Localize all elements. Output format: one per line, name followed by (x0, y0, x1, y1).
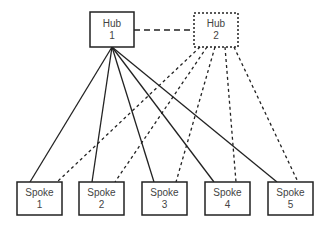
hub-1: Hub 1 (90, 12, 134, 47)
hub1-spoke3-link (112, 47, 154, 182)
spoke-3: Spoke 3 (142, 182, 187, 215)
hub-spoke-diagram: Hub 1 Hub 2 Spoke 1 Spoke 2 Spoke 3 Spok… (0, 0, 330, 227)
spoke-3-number: 3 (162, 199, 168, 210)
hub2-spoke5-link (234, 47, 298, 182)
spoke-4-label: Spoke (213, 187, 242, 198)
spoke-1-label: Spoke (25, 187, 54, 198)
spoke-2-label: Spoke (87, 187, 116, 198)
hub1-spoke5-link (112, 47, 277, 182)
spoke-5-label: Spoke (276, 187, 305, 198)
hub-1-label: Hub (103, 18, 122, 29)
spoke-2: Spoke 2 (79, 182, 124, 215)
hub-2: Hub 2 (194, 13, 238, 47)
spoke-2-number: 2 (99, 199, 105, 210)
spoke-3-label: Spoke (150, 187, 179, 198)
spoke-5-number: 5 (288, 199, 294, 210)
spoke-1: Spoke 1 (17, 182, 62, 215)
spoke-4: Spoke 4 (205, 182, 250, 215)
hub-2-label: Hub (207, 18, 226, 29)
spoke-1-number: 1 (37, 199, 43, 210)
hub1-links (30, 47, 277, 182)
hub2-links (57, 47, 298, 182)
hub1-spoke1-link (30, 47, 112, 182)
hub-1-number: 1 (109, 30, 115, 41)
hub1-spoke2-link (92, 47, 112, 182)
hub1-spoke4-link (112, 47, 214, 182)
hub-2-number: 2 (213, 30, 219, 41)
spoke-4-number: 4 (225, 199, 231, 210)
spoke-5: Spoke 5 (268, 182, 313, 215)
hub2-spoke4-link (225, 47, 236, 182)
